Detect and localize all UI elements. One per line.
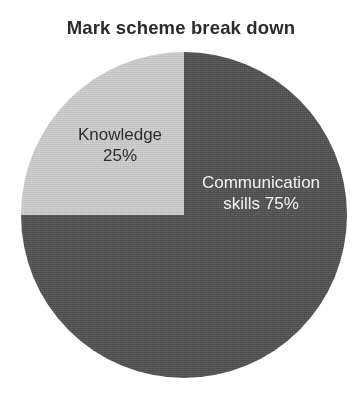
pie-slice-knowledge bbox=[21, 52, 184, 215]
pie-chart-figure: Mark scheme break down Knowledge 25% Com… bbox=[0, 0, 362, 394]
chart-title: Mark scheme break down bbox=[0, 16, 362, 40]
pie-svg bbox=[21, 52, 347, 378]
pie-chart-graphic bbox=[21, 52, 347, 378]
